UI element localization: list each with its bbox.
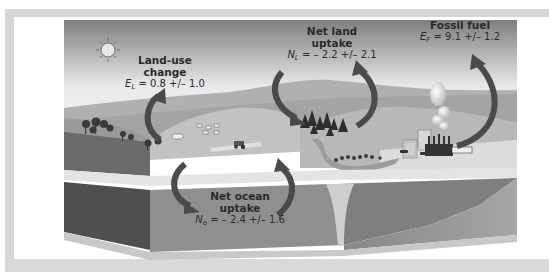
bus-icon [452, 147, 472, 153]
land-use-value: = 0.8 +/– 1.0 [138, 78, 204, 89]
net-land-symbol: N [287, 49, 294, 60]
net-land-value: = – 2.2 +/– 2.1 [302, 49, 377, 60]
net-land-uptake-label: Net land uptake NL = – 2.2 +/– 2.1 [272, 25, 392, 64]
net-ocean-subscript: o [203, 219, 207, 227]
land-use-title-1: Land-use [115, 54, 215, 66]
net-ocean-title-1: Net ocean [180, 190, 300, 202]
land-use-equation: EL = 0.8 +/– 1.0 [115, 78, 215, 93]
fossil-fuel-label: Fossil fuel EF = 9.1 +/– 1.2 [405, 19, 515, 46]
fossil-fuel-subscript: F [426, 36, 430, 44]
land-use-subscript: L [131, 83, 135, 91]
net-ocean-title-2: uptake [180, 202, 300, 214]
net-land-subscript: L [295, 54, 299, 62]
fossil-fuel-equation: EF = 9.1 +/– 1.2 [405, 31, 515, 46]
land-use-title-2: change [115, 66, 215, 78]
fossil-fuel-title: Fossil fuel [405, 19, 515, 31]
net-land-equation: NL = – 2.2 +/– 2.1 [272, 49, 392, 64]
net-ocean-symbol: N [195, 214, 202, 225]
net-land-title-2: uptake [272, 37, 392, 49]
fossil-fuel-value: = 9.1 +/– 1.2 [434, 31, 500, 42]
factory-icon [425, 134, 453, 156]
net-land-title-1: Net land [272, 25, 392, 37]
barn-icon [172, 134, 183, 139]
net-ocean-value: = – 2.4 +/– 1.6 [210, 214, 285, 225]
net-ocean-equation: No = – 2.4 +/– 1.6 [180, 214, 300, 229]
arrow-head-icon [274, 158, 290, 172]
land-use-change-label: Land-use change EL = 0.8 +/– 1.0 [115, 54, 215, 93]
net-ocean-uptake-label: Net ocean uptake No = – 2.4 +/– 1.6 [180, 190, 300, 229]
